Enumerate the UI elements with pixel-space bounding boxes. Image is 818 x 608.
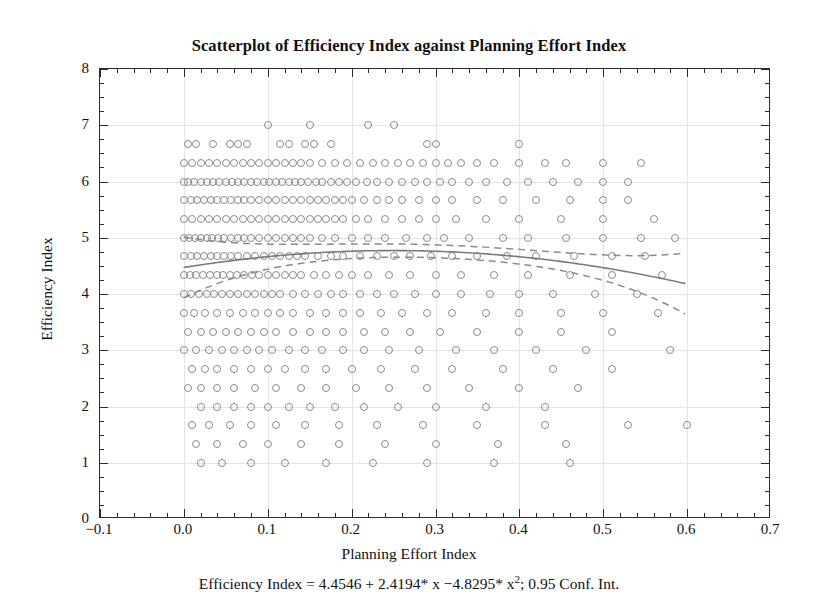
x-tick-label: 0.5	[593, 521, 612, 538]
x-tick-label: 0.0	[174, 521, 193, 538]
x-tick-label: 0.7	[761, 521, 780, 538]
regression-line	[184, 251, 686, 284]
y-tick-label: 3	[59, 341, 89, 358]
y-tick-label: 1	[59, 453, 89, 470]
y-tick-label: 7	[59, 116, 89, 133]
caption-equation-suffix: ; 0.95 Conf. Int.	[520, 575, 619, 592]
x-tick-label: 0.4	[509, 521, 528, 538]
x-tick-label: 0.1	[257, 521, 276, 538]
y-axis-label: Efficiency Index	[38, 179, 56, 399]
chart-caption: Efficiency Index = 4.4546 + 2.4194* x −4…	[0, 573, 818, 593]
confidence-band-lower	[184, 257, 686, 314]
x-tick-label: −0.1	[85, 521, 112, 538]
regression-curves-layer	[100, 69, 769, 517]
y-tick-label: 0	[59, 510, 89, 527]
y-tick-label: 2	[59, 397, 89, 414]
caption-equation-prefix: Efficiency Index = 4.4546 + 2.4194	[199, 575, 421, 592]
caption-equation-mid: * x −4.8295* x	[421, 575, 515, 592]
x-tick-label: 0.3	[425, 521, 444, 538]
y-tick-label: 8	[59, 60, 89, 77]
y-tick-label: 4	[59, 285, 89, 302]
y-tick-label: 6	[59, 172, 89, 189]
x-tick-label: 0.6	[677, 521, 696, 538]
y-tick-label: 5	[59, 228, 89, 245]
plot-area	[99, 68, 770, 518]
x-tick-label: 0.2	[341, 521, 360, 538]
confidence-band-upper	[184, 237, 686, 256]
x-axis-label: Planning Effort Index	[0, 545, 818, 563]
chart-title: Scatterplot of Efficiency Index against …	[0, 36, 818, 56]
figure-container: Scatterplot of Efficiency Index against …	[0, 0, 818, 608]
